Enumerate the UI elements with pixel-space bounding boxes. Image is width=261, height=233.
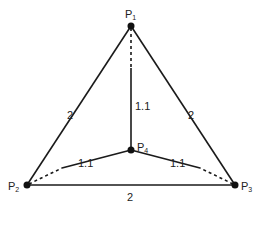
node-p4	[128, 147, 135, 154]
label-p1: P1	[125, 8, 136, 21]
weight-p2-p4: 1.1	[78, 157, 93, 169]
weight-p1-p3: 2	[188, 109, 194, 121]
weight-p3-p4: 1.1	[170, 157, 185, 169]
node-p1	[128, 23, 135, 30]
edge-p2-p4-solid	[62, 150, 131, 168]
weight-p1-p2: 2	[67, 109, 73, 121]
node-p3	[232, 182, 239, 189]
label-p3: P3	[241, 180, 252, 193]
edge-p2-p4-dashed	[29, 168, 62, 184]
graph-diagram: P1 P2 P3 P4 2 2 2 1.1 1.1 1.1	[0, 0, 261, 233]
weight-p2-p3: 2	[127, 191, 133, 203]
node-p2	[24, 182, 31, 189]
label-p4: P4	[137, 141, 148, 154]
weight-p1-p4: 1.1	[135, 100, 150, 112]
edge-p3-p4-dashed	[200, 168, 233, 184]
label-p2: P2	[8, 180, 19, 193]
